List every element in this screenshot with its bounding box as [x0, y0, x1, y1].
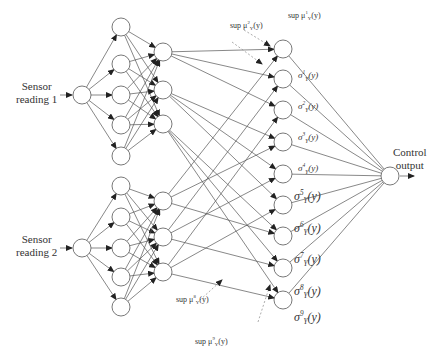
membership-node	[112, 55, 130, 73]
connection-edge	[89, 70, 114, 90]
consequent-node	[274, 227, 292, 245]
rule-node	[154, 192, 172, 210]
connection-edge	[125, 60, 158, 117]
consequent-node	[274, 133, 292, 151]
connection-edge	[168, 117, 277, 265]
membership-node	[112, 177, 130, 195]
connection-edge	[171, 56, 275, 106]
sup-dashed-arrow	[232, 42, 262, 64]
sup-mu-label-2: sup μ1Y(y)	[288, 10, 321, 21]
output-label-control: Control output	[393, 146, 427, 172]
input-node	[73, 239, 91, 257]
sigma-label-7: σ7Y(y)	[294, 252, 321, 268]
connection-edge	[89, 253, 114, 271]
rule-node	[154, 43, 172, 61]
connection-edge	[172, 49, 274, 52]
input-label-sensor-1: Sensor reading 1	[16, 80, 57, 106]
sigma-label-5: σ5Y(y)	[294, 189, 321, 205]
connection-edge	[170, 130, 277, 230]
connection-edge	[129, 189, 154, 198]
connection-edge	[292, 174, 381, 176]
connection-edge	[89, 223, 114, 243]
sigma-label-8: σ8Y(y)	[294, 284, 321, 300]
output-label-line2: output	[393, 159, 427, 172]
connection-edge	[129, 204, 154, 214]
sigma-label-6: σ6Y(y)	[294, 221, 321, 237]
rule-node	[154, 81, 172, 99]
connection-edge	[172, 54, 274, 77]
rule-node	[154, 263, 172, 281]
sigma-label-4: σ4Y(y)	[298, 162, 318, 175]
sup-dashed-arrow	[244, 30, 270, 46]
membership-node	[112, 268, 130, 286]
membership-node	[112, 147, 130, 165]
connection-edge	[126, 98, 158, 149]
input-label-line2: reading 2	[16, 246, 57, 259]
sup-mu-label-1: sup μ2Y(y)	[230, 20, 263, 31]
membership-node	[112, 18, 130, 36]
connection-edge	[169, 96, 276, 199]
connection-edge	[169, 56, 278, 194]
sup-dashed-arrow	[258, 285, 270, 322]
membership-node	[112, 208, 130, 226]
connection-edge	[168, 86, 277, 230]
membership-node	[112, 116, 130, 134]
connection-edge	[128, 100, 155, 119]
consequent-node	[274, 291, 292, 309]
connection-edge	[168, 131, 278, 292]
sigma-label-1: σ1Y(y)	[298, 69, 318, 82]
connection-edge	[126, 245, 159, 300]
input-label-sensor-2: Sensor reading 2	[16, 233, 57, 259]
connection-edge	[290, 85, 384, 170]
consequent-node	[274, 165, 292, 183]
network-diagram	[0, 0, 439, 349]
connection-edge	[171, 209, 275, 267]
sigma-label-3: σ3Y(y)	[298, 131, 318, 144]
sigma-label-2: σ2Y(y)	[298, 100, 318, 113]
consequent-node	[274, 196, 292, 214]
connection-edge	[89, 100, 114, 119]
input-label-line1: Sensor	[16, 80, 57, 93]
membership-node	[112, 239, 130, 257]
consequent-node	[274, 101, 292, 119]
output-label-line1: Control	[393, 146, 427, 159]
membership-node	[112, 298, 130, 316]
connection-edge	[169, 131, 277, 261]
rule-node	[154, 115, 172, 133]
connection-edge	[172, 239, 275, 265]
input-node	[73, 86, 91, 104]
input-label-line1: Sensor	[16, 233, 57, 246]
connection-edge	[128, 278, 156, 301]
sigma-label-9: σ9Y(y)	[294, 310, 321, 326]
input-label-line2: reading 1	[16, 93, 57, 106]
rule-node	[154, 228, 172, 246]
consequent-node	[274, 70, 292, 88]
consequent-node	[274, 259, 292, 277]
sup-mu-label-4: sup μ9Y(y)	[195, 336, 228, 347]
membership-node	[112, 86, 130, 104]
connection-edge	[128, 129, 156, 150]
sup-mu-label-3: sup μ8Y(y)	[176, 294, 209, 305]
consequent-node	[274, 40, 292, 58]
